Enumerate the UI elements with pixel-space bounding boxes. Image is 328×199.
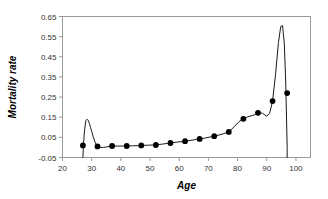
data-point-marker xyxy=(182,138,188,144)
x-tick-label: 30 xyxy=(87,164,96,173)
data-point-marker xyxy=(124,143,130,149)
data-point-marker xyxy=(226,129,232,135)
data-point-marker xyxy=(255,110,261,116)
x-tick-label: 100 xyxy=(289,164,303,173)
y-axis-title: Mortality rate xyxy=(7,55,18,118)
y-tick-label: 0.65 xyxy=(41,13,57,22)
y-tick-label: 0.55 xyxy=(41,33,57,42)
data-point-marker xyxy=(80,143,86,149)
data-point-marker xyxy=(270,98,276,104)
x-axis-title: Age xyxy=(176,180,196,191)
data-point-marker xyxy=(109,143,115,149)
chart-canvas: 2030405060708090100 -0.050.050.150.250.3… xyxy=(0,0,328,199)
x-tick-label: 80 xyxy=(233,164,242,173)
y-tick-label: 0.25 xyxy=(41,93,57,102)
y-tick-label: 0.45 xyxy=(41,53,57,62)
x-tick-label: 50 xyxy=(146,164,155,173)
data-point-marker xyxy=(211,133,217,139)
data-point-marker xyxy=(95,144,101,150)
data-point-marker xyxy=(240,116,246,122)
x-tick-label: 20 xyxy=(58,164,67,173)
data-point-marker xyxy=(168,140,174,146)
mortality-rate-chart: 2030405060708090100 -0.050.050.150.250.3… xyxy=(0,0,328,199)
x-tick-label: 40 xyxy=(116,164,125,173)
y-tick-label: -0.05 xyxy=(38,154,57,163)
data-point-marker xyxy=(197,136,203,142)
x-tick-label: 60 xyxy=(175,164,184,173)
y-tick-label: 0.05 xyxy=(41,133,57,142)
data-point-marker xyxy=(284,90,290,96)
y-tick-label: 0.15 xyxy=(41,113,57,122)
data-point-marker xyxy=(138,143,144,149)
x-tick-label: 70 xyxy=(204,164,213,173)
y-tick-label: 0.35 xyxy=(41,73,57,82)
x-axis-tick-labels: 2030405060708090100 xyxy=(58,164,303,173)
data-point-marker xyxy=(153,142,159,148)
x-tick-label: 90 xyxy=(262,164,271,173)
